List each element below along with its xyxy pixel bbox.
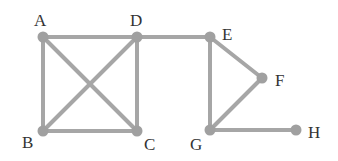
node-F (257, 73, 268, 84)
graph-nodes (38, 32, 302, 137)
node-label-G: G (190, 135, 202, 154)
node-E (205, 32, 216, 43)
graph-edges (43, 37, 296, 131)
node-D (132, 32, 143, 43)
edge-F-G (210, 78, 262, 130)
node-label-H: H (308, 123, 320, 142)
node-label-A: A (34, 11, 47, 30)
node-label-F: F (275, 71, 284, 90)
node-B (38, 126, 49, 137)
node-label-C: C (144, 135, 155, 154)
node-label-B: B (22, 133, 33, 152)
node-C (132, 126, 143, 137)
node-label-D: D (130, 11, 142, 30)
edge-E-F (210, 37, 262, 78)
node-label-E: E (222, 25, 232, 44)
node-A (38, 32, 49, 43)
node-H (291, 125, 302, 136)
graph-diagram: ADBCEFGH (0, 0, 338, 161)
node-G (205, 125, 216, 136)
